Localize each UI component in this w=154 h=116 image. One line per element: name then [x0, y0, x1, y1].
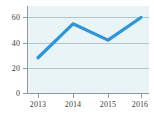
series-layer [0, 0, 154, 116]
line-chart: 60 40 20 0 2013 2014 2015 2016 [0, 0, 154, 116]
series-line-path [38, 18, 141, 58]
